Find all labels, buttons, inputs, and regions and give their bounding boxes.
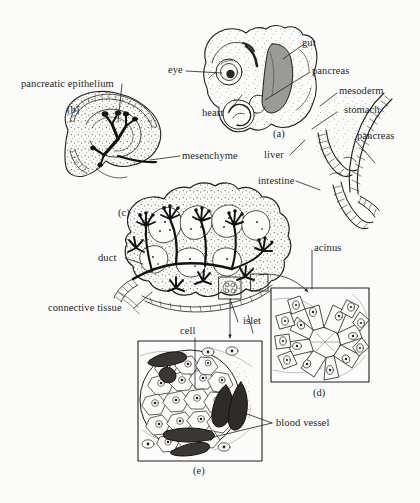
label-pancreatic-epithelium: pancreatic epithelium [21,79,114,90]
figure-pancreas-development: gut pancreas eye heart mesoderm stomach … [0,0,420,503]
label-connective-tissue: connective tissue [48,303,122,314]
label-acinus: acinus [314,243,341,254]
panel-letter-b: (b) [67,105,79,116]
panel-d-acinus [271,288,369,382]
label-pancreas-embryo: pancreas [312,66,350,77]
panel-letter-a: (a) [273,129,285,140]
label-blood-vessel: blood vessel [276,418,329,429]
label-islet: islet [243,316,261,327]
label-intestine: intestine [258,176,294,187]
panel-letter-c: (c) [118,208,130,219]
label-heart: heart [202,108,224,119]
panel-letter-d: (d) [313,388,325,399]
label-duct: duct [98,253,116,264]
panel-c-pancreas [114,183,291,314]
label-cell: cell [180,326,196,337]
label-mesoderm: mesoderm [339,86,384,97]
label-stomach: stomach [344,105,380,116]
panel-e-islet [138,341,262,461]
label-gut: gut [302,38,316,49]
label-eye: eye [168,65,183,76]
label-mesenchyme: mesenchyme [182,151,238,162]
figure-artwork [0,0,420,503]
label-pancreas-gut: pancreas [357,131,395,142]
panel-letter-e: (e) [193,466,205,477]
panel-b-bud [65,91,161,178]
label-liver: liver [264,150,284,161]
